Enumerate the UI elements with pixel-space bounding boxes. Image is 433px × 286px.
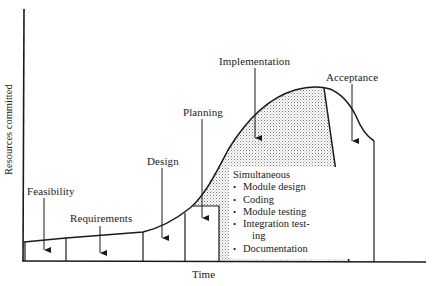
phase-label-implementation: Implementation [219,56,290,67]
simultaneous-item-module-testing: Module testing [229,206,351,218]
phase-label-acceptance: Acceptance [326,72,378,83]
planning-box [193,206,219,261]
phase-label-planning: Planning [183,107,223,118]
y-axis [23,9,24,261]
phase-label-feasibility: Feasibility [27,186,75,197]
phase-label-requirements: Requirements [70,213,132,224]
x-axis [22,261,426,262]
simultaneous-item-documentation: Documentation [229,243,351,255]
y-axis-label: Resources committed [3,84,14,175]
simultaneous-activities-box: Simultaneous Module design Coding Module… [229,167,351,259]
simultaneous-item-coding: Coding [229,194,351,206]
x-axis-label: Time [192,269,215,280]
simultaneous-list: Module design Coding Module testing Inte… [229,181,351,255]
phase-label-design: Design [147,156,179,167]
lifecycle-diagram [0,0,433,286]
simultaneous-title: Simultaneous [229,167,351,181]
simultaneous-item-module-design: Module design [229,181,351,193]
simultaneous-item-integration-testing: Integration test-ing [229,218,351,243]
